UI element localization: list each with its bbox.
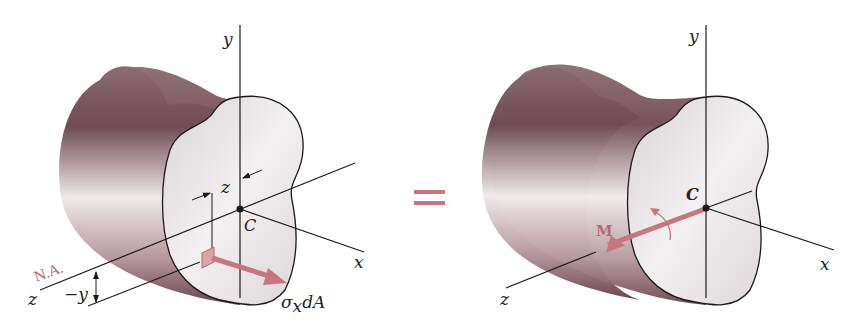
neg-y-dimension-label: −y (64, 284, 88, 304)
x-axis-label-left: x (354, 252, 364, 272)
moment-label: M (596, 222, 613, 240)
z-axis-label-right: z (499, 289, 510, 309)
z-dimension-label: z (220, 177, 231, 197)
centroid-dot-left (237, 206, 244, 213)
left-panel: y x z C z −y N.A. σxdA (27, 25, 364, 316)
right-panel: y x z C M (482, 25, 834, 309)
centroid-dot-right (703, 205, 710, 212)
sigma-x-dA-label: σxdA (281, 292, 325, 316)
equals-sign (414, 190, 445, 205)
y-axis-label-right: y (688, 26, 699, 46)
x-axis-label-right: x (820, 254, 830, 274)
centroid-label-right: C (686, 185, 699, 204)
neutral-axis-label: N.A. (32, 259, 66, 284)
z-axis-label-left: z (27, 289, 38, 309)
bending-stress-diagram: y x z C z −y N.A. σxdA y x z C M (0, 0, 856, 335)
centroid-label-left: C (244, 216, 256, 235)
y-axis-label-left: y (222, 29, 233, 49)
